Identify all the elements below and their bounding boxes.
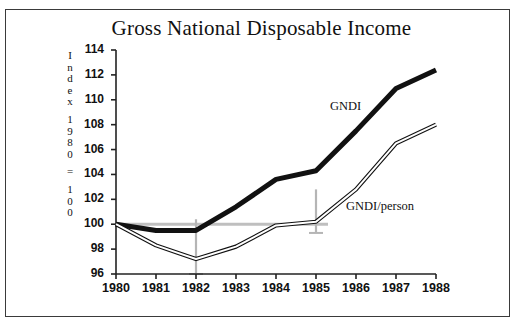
- series-line-gndi-person-outer: [116, 125, 436, 259]
- y-tick-label: 110: [74, 92, 104, 106]
- x-tick-label: 1981: [134, 281, 178, 295]
- x-tick-label: 1983: [214, 281, 258, 295]
- x-tick-label: 1982: [174, 281, 218, 295]
- y-tick-label: 112: [74, 67, 104, 81]
- series-line-gndi-person-inner: [116, 125, 436, 259]
- y-tick-label: 100: [74, 216, 104, 230]
- chart-screenshot: Gross National Disposable Income I n d e…: [0, 0, 523, 331]
- y-tick-label: 98: [74, 241, 104, 255]
- x-tick-label: 1980: [94, 281, 138, 295]
- y-tick-label: 106: [74, 142, 104, 156]
- y-tick-label: 108: [74, 117, 104, 131]
- series-layer: [116, 70, 436, 259]
- y-tick-label: 96: [74, 266, 104, 280]
- y-tick-label: 114: [74, 42, 104, 56]
- x-tick-label: 1987: [374, 281, 418, 295]
- y-tick-label: 104: [74, 166, 104, 180]
- x-tick-label: 1985: [294, 281, 338, 295]
- x-tick-label: 1984: [254, 281, 298, 295]
- x-tick-label: 1986: [334, 281, 378, 295]
- x-tick-label: 1988: [414, 281, 458, 295]
- series-label-gndi: GNDI: [330, 99, 361, 114]
- y-tick-label: 102: [74, 191, 104, 205]
- series-label-gndi-person: GNDI/person: [346, 199, 414, 214]
